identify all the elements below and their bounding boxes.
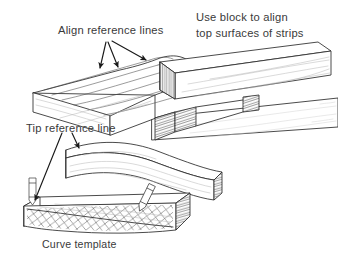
woodworking-diagram: Align reference lines Use block to align…	[0, 0, 338, 265]
alignment-block	[160, 42, 331, 99]
label-tip-reference-line: Tip reference line	[26, 122, 116, 134]
curve-template	[24, 193, 190, 233]
curved-strip	[66, 142, 222, 200]
pencil-left	[29, 178, 36, 205]
label-align-reference-lines: Align reference lines	[58, 24, 164, 36]
label-use-block-line1: Use block to align	[196, 11, 288, 23]
label-curve-template: Curve template	[42, 238, 117, 250]
label-use-block-line2: top surfaces of strips	[196, 27, 304, 39]
align-reference-arrows	[100, 41, 146, 68]
